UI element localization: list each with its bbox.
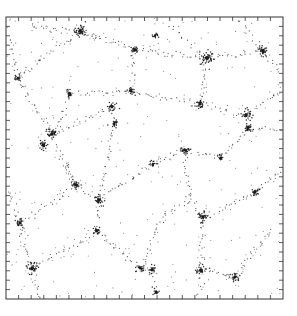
plot-background bbox=[6, 17, 283, 299]
scatter-plot: Square framed scatter plot of particle p… bbox=[0, 0, 297, 316]
plot-canvas bbox=[0, 0, 297, 316]
